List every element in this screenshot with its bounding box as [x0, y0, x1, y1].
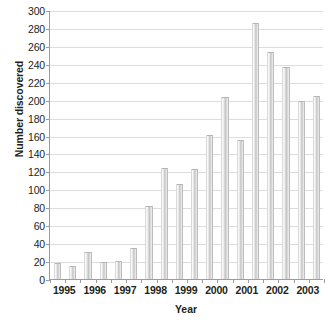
x-tick-mark	[141, 279, 142, 283]
x-tick-label-1996: 1996	[83, 284, 106, 296]
x-tick-mark	[65, 279, 66, 283]
x-tick-mark	[309, 279, 310, 283]
bar-cap	[314, 96, 319, 97]
y-tick-mark	[46, 65, 50, 66]
bar-2003-1	[313, 96, 320, 279]
x-tick-label-2003: 2003	[296, 284, 319, 296]
y-tick-label: 0	[5, 274, 45, 286]
bar-2003-0	[298, 101, 305, 279]
x-tick-mark	[248, 279, 249, 283]
y-tick-mark	[46, 47, 50, 48]
bar-1999-1	[191, 169, 198, 279]
gridline	[50, 47, 323, 48]
bar-cap	[207, 135, 212, 136]
y-tick-mark	[46, 172, 50, 173]
bar-2001-1	[252, 23, 259, 279]
y-tick-mark	[46, 262, 50, 263]
bar-cap	[299, 101, 304, 102]
x-tick-label-2002: 2002	[266, 284, 289, 296]
y-tick-mark	[46, 11, 50, 12]
x-tick-mark	[278, 279, 279, 283]
x-tick-mark	[202, 279, 203, 283]
y-tick-mark	[46, 119, 50, 120]
bar-2000-1	[221, 97, 228, 279]
bar-1997-0	[115, 261, 122, 279]
y-tick-mark	[46, 208, 50, 209]
y-tick-mark	[46, 226, 50, 227]
x-tick-mark	[217, 279, 218, 283]
bar-1995-0	[54, 263, 61, 279]
y-tick-mark	[46, 244, 50, 245]
y-tick-label: 300	[5, 5, 45, 17]
y-tick-label: 40	[5, 238, 45, 250]
y-tick-label: 160	[5, 131, 45, 143]
y-tick-label: 80	[5, 202, 45, 214]
bar-cap	[101, 262, 106, 263]
bar-2000-0	[206, 135, 213, 279]
y-tick-mark	[46, 29, 50, 30]
y-tick-mark	[46, 154, 50, 155]
gridline	[50, 11, 323, 12]
gridline	[50, 65, 323, 66]
bar-cap	[238, 140, 243, 141]
y-tick-label: 240	[5, 59, 45, 71]
y-tick-mark	[46, 190, 50, 191]
y-tick-mark	[46, 83, 50, 84]
gridline	[50, 29, 323, 30]
x-tick-mark	[80, 279, 81, 283]
bar-cap	[162, 168, 167, 169]
y-tick-mark	[46, 101, 50, 102]
y-axis-title: Number discovered	[13, 34, 25, 184]
y-tick-label: 280	[5, 23, 45, 35]
x-tick-mark	[233, 279, 234, 283]
bar-2002-1	[282, 67, 289, 279]
x-tick-label-1995: 1995	[53, 284, 76, 296]
x-tick-mark	[96, 279, 97, 283]
y-tick-label: 60	[5, 220, 45, 232]
y-tick-label: 220	[5, 77, 45, 89]
bar-cap	[253, 23, 258, 24]
x-tick-mark	[111, 279, 112, 283]
bar-1999-0	[176, 184, 183, 279]
x-tick-mark	[324, 279, 325, 283]
bar-1997-1	[130, 248, 137, 279]
y-tick-label: 100	[5, 184, 45, 196]
y-tick-mark	[46, 137, 50, 138]
y-tick-label: 180	[5, 113, 45, 125]
x-tick-mark	[126, 279, 127, 283]
x-tick-mark	[187, 279, 188, 283]
bar-1996-1	[100, 262, 107, 279]
x-tick-mark	[263, 279, 264, 283]
bar-cap	[177, 184, 182, 185]
bar-cap	[70, 266, 75, 267]
bar-cap	[268, 52, 273, 53]
bar-cap	[116, 261, 121, 262]
bar-2002-0	[267, 52, 274, 279]
bar-cap	[55, 263, 60, 264]
x-tick-mark	[172, 279, 173, 283]
chart-title	[0, 0, 328, 5]
bar-1995-1	[69, 266, 76, 279]
bar-cap	[146, 206, 151, 207]
y-tick-label: 140	[5, 148, 45, 160]
y-tick-label: 20	[5, 256, 45, 268]
x-axis-title: Year	[44, 303, 328, 315]
x-tick-mark	[294, 279, 295, 283]
bar-cap	[192, 169, 197, 170]
x-tick-label-2000: 2000	[205, 284, 228, 296]
x-tick-label-1998: 1998	[144, 284, 167, 296]
y-tick-label: 200	[5, 95, 45, 107]
y-tick-label: 260	[5, 41, 45, 53]
bar-cap	[222, 97, 227, 98]
plot-area	[49, 11, 323, 280]
bar-2001-0	[237, 140, 244, 279]
bar-cap	[85, 252, 90, 253]
x-tick-label-1999: 1999	[175, 284, 198, 296]
y-tick-label: 120	[5, 166, 45, 178]
x-tick-label-2001: 2001	[236, 284, 259, 296]
bar-cap	[283, 67, 288, 68]
bar-1996-0	[84, 252, 91, 279]
bar-1998-1	[161, 168, 168, 279]
bar-cap	[131, 248, 136, 249]
x-tick-label-1997: 1997	[114, 284, 137, 296]
